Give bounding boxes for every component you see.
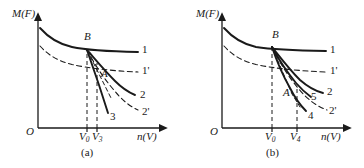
panel-a-plot <box>0 0 182 168</box>
x-tick-label-v4-b: V4 <box>290 131 300 142</box>
x-tick-label-v3-a: V3 <box>92 131 102 142</box>
figure-root: M(F) n(V) O B A V0 V3 1 1' 2 2' 3 (a) <box>0 0 364 168</box>
curve-label-5-b: 5 <box>311 91 317 102</box>
x-axis-label-a: n(V) <box>137 131 157 142</box>
point-label-a-a: A <box>101 68 108 79</box>
curve-label-2-b: 2 <box>327 86 333 97</box>
point-label-a-b: A <box>283 87 290 98</box>
panel-a: M(F) n(V) O B A V0 V3 1 1' 2 2' 3 (a) <box>0 0 182 168</box>
curve-label-2prime-a: 2' <box>142 106 149 117</box>
y-axis-label-b: M(F) <box>196 8 219 19</box>
curve-label-2prime-b: 2' <box>329 105 336 116</box>
curve-label-1prime-b: 1' <box>330 65 337 76</box>
curve-label-1prime-a: 1' <box>142 65 149 76</box>
curve-label-1-b: 1 <box>330 44 336 55</box>
panel-caption-a: (a) <box>81 146 93 158</box>
x-tick-label-v0-a: V0 <box>79 131 89 142</box>
y-axis-label-a: M(F) <box>12 8 35 19</box>
x-tick-label-v0-b: V0 <box>265 131 275 142</box>
origin-label-a: O <box>26 126 34 137</box>
curve-label-2-a: 2 <box>140 89 146 100</box>
curve-label-4-b: 4 <box>308 110 314 121</box>
origin-label-b: O <box>210 126 218 137</box>
panel-b: M(F) n(V) O B A V0 V4 1 1' 2 2' 5 4 (b) <box>182 0 364 168</box>
x-axis-label-b: n(V) <box>321 131 341 142</box>
point-label-b-b: B <box>272 29 279 40</box>
point-label-b-a: B <box>84 31 91 42</box>
panel-caption-b: (b) <box>266 146 279 158</box>
curve-label-1-a: 1 <box>142 44 148 55</box>
curve-label-3-a: 3 <box>110 111 116 122</box>
